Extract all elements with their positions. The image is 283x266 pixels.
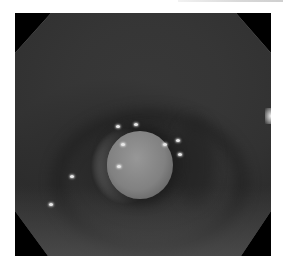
- endoscopic-image: [15, 13, 271, 256]
- specular-highlight: [70, 175, 74, 178]
- specular-highlight: [49, 203, 53, 206]
- endoscopy-frame: [15, 13, 271, 256]
- specular-highlight: [121, 143, 125, 146]
- specular-highlight: [176, 139, 180, 142]
- edge-glare: [265, 108, 271, 124]
- specular-highlight: [178, 153, 182, 156]
- specular-highlight: [117, 165, 121, 168]
- top-edge-line: [178, 0, 283, 2]
- specular-highlight: [134, 123, 138, 126]
- specular-highlight: [163, 143, 167, 146]
- specular-highlight: [116, 125, 120, 128]
